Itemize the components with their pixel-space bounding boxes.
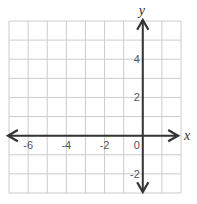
grid-lines <box>9 21 181 193</box>
y-tick-label: 4 <box>134 53 140 65</box>
x-axis-label: x <box>183 128 191 143</box>
y-tick-label: 2 <box>134 91 140 103</box>
axes <box>8 20 178 192</box>
coordinate-plane: -6-4-2042-2 x y <box>0 0 197 204</box>
y-tick-label: -2 <box>130 168 140 180</box>
x-tick-label: 0 <box>134 139 140 151</box>
x-tick-label: -2 <box>100 139 110 151</box>
y-axis-label: y <box>137 3 146 18</box>
x-tick-label: -4 <box>61 139 71 151</box>
x-tick-label: -6 <box>23 139 33 151</box>
